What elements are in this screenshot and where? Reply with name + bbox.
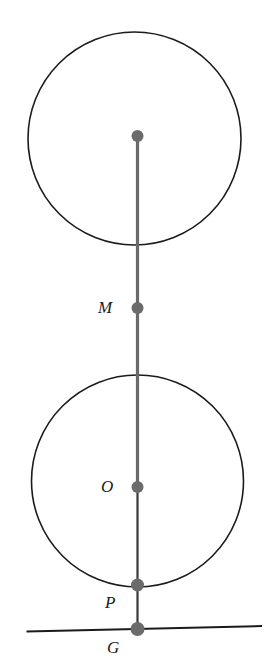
point-o-dot xyxy=(132,481,144,493)
point-label-p: P xyxy=(105,594,115,611)
point-label-o: O xyxy=(101,478,113,495)
point-label-m: M xyxy=(98,299,112,316)
point-p-dot xyxy=(131,579,144,592)
point-upper-center-dot xyxy=(132,130,144,142)
point-g-dot xyxy=(131,622,145,636)
point-m-dot xyxy=(132,302,144,314)
point-label-g: G xyxy=(107,639,119,656)
geometry-figure: M O P G xyxy=(0,0,278,672)
geometry-canvas xyxy=(0,0,278,672)
